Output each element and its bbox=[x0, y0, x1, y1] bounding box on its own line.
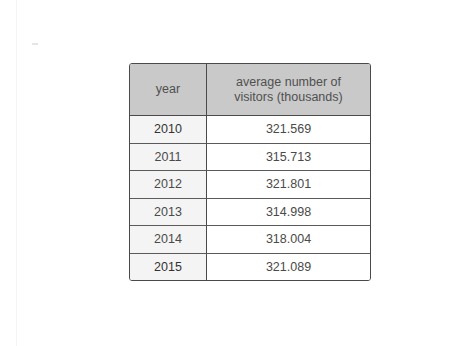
table-row: 2014 318.004 bbox=[130, 226, 370, 254]
table-row: 2012 321.801 bbox=[130, 171, 370, 199]
visitors-table: year average number of visitors (thousan… bbox=[129, 63, 371, 281]
header-visitors-line2: visitors (thousands) bbox=[234, 90, 342, 104]
table-row: 2010 321.569 bbox=[130, 116, 370, 144]
header-year: year bbox=[130, 64, 207, 116]
visitors-cell: 321.801 bbox=[207, 171, 370, 199]
year-cell: 2013 bbox=[130, 199, 207, 227]
header-visitors: average number of visitors (thousands) bbox=[207, 64, 370, 116]
year-cell: 2014 bbox=[130, 226, 207, 254]
page-edge-shadow bbox=[16, 0, 17, 346]
year-cell: 2010 bbox=[130, 116, 207, 144]
visitors-cell: 321.089 bbox=[207, 254, 370, 281]
year-cell: 2012 bbox=[130, 171, 207, 199]
document-page: year average number of visitors (thousan… bbox=[0, 0, 454, 346]
visitors-cell: 314.998 bbox=[207, 199, 370, 227]
year-cell: 2015 bbox=[130, 254, 207, 281]
header-visitors-line1: average number of bbox=[236, 75, 341, 89]
table-row: 2015 321.089 bbox=[130, 254, 370, 281]
table-row: 2013 314.998 bbox=[130, 199, 370, 227]
table-header-row: year average number of visitors (thousan… bbox=[130, 64, 370, 116]
visitors-cell: 315.713 bbox=[207, 144, 370, 172]
table-row: 2011 315.713 bbox=[130, 144, 370, 172]
visitors-cell: 321.569 bbox=[207, 116, 370, 144]
scan-speck bbox=[32, 43, 38, 45]
visitors-cell: 318.004 bbox=[207, 226, 370, 254]
year-cell: 2011 bbox=[130, 144, 207, 172]
